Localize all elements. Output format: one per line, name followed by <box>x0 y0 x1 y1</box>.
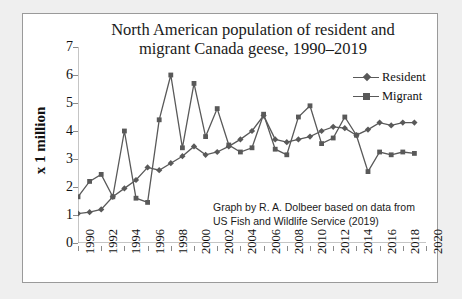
data-point-marker <box>168 160 174 166</box>
data-point-marker <box>203 134 208 139</box>
data-point-marker <box>308 103 313 108</box>
data-point-marker <box>284 152 289 157</box>
chart-title-line-1: North American population of resident an… <box>71 20 435 39</box>
data-point-marker <box>157 117 162 122</box>
data-point-marker <box>250 145 255 150</box>
data-point-marker <box>331 136 336 141</box>
x-tick-mark <box>403 246 404 251</box>
data-point-marker <box>400 119 406 125</box>
data-point-marker <box>318 128 324 134</box>
x-tick-mark <box>124 246 125 251</box>
x-tick-label: 1990 <box>83 229 98 254</box>
chart-frame: North American population of resident an… <box>22 13 438 283</box>
y-tick-label: 6 <box>47 67 73 83</box>
data-point-marker <box>110 194 115 199</box>
chart-legend: Resident Migrant <box>353 68 426 106</box>
x-tick-label: 2002 <box>222 229 237 254</box>
legend-label-resident: Resident <box>382 70 426 85</box>
y-axis-ticks: 01234567 <box>43 14 73 284</box>
legend-item-resident: Resident <box>353 68 426 87</box>
data-point-marker <box>226 143 231 148</box>
x-tick-label: 2004 <box>245 229 260 254</box>
data-point-marker <box>86 209 92 215</box>
x-tick-mark <box>148 246 149 251</box>
x-tick-label: 2014 <box>361 229 376 254</box>
data-point-marker <box>389 152 394 157</box>
y-tick-label: 2 <box>47 179 73 195</box>
y-tick-mark <box>73 243 78 244</box>
legend-label-migrant: Migrant <box>382 89 422 104</box>
data-point-marker <box>192 81 197 86</box>
x-tick-mark <box>101 246 102 251</box>
data-point-marker <box>215 106 220 111</box>
data-point-marker <box>214 149 220 155</box>
data-point-marker <box>365 126 371 132</box>
data-point-marker <box>261 112 266 117</box>
data-point-marker <box>307 133 313 139</box>
data-point-marker <box>330 124 336 130</box>
x-tick-mark <box>356 246 357 251</box>
data-point-marker <box>87 179 92 184</box>
data-point-marker <box>412 151 417 156</box>
data-point-marker <box>388 122 394 128</box>
data-point-marker <box>411 119 417 125</box>
data-point-marker <box>156 167 162 173</box>
data-point-marker <box>134 196 139 201</box>
x-tick-mark <box>171 246 172 251</box>
x-tick-mark <box>78 246 79 251</box>
y-tick-label: 3 <box>47 151 73 167</box>
x-tick-mark <box>333 246 334 251</box>
data-point-marker <box>145 200 150 205</box>
y-tick-label: 1 <box>47 207 73 223</box>
data-point-marker <box>122 129 127 134</box>
x-tick-mark <box>240 246 241 251</box>
x-tick-mark <box>380 246 381 251</box>
data-point-marker <box>238 150 243 155</box>
x-tick-mark <box>287 246 288 251</box>
legend-marker-diamond-icon <box>353 73 379 83</box>
data-point-marker <box>366 169 371 174</box>
data-point-marker <box>78 210 81 216</box>
x-tick-label: 1996 <box>153 229 168 254</box>
x-tick-label: 2000 <box>199 229 214 254</box>
y-tick-label: 7 <box>47 39 73 55</box>
x-tick-mark <box>426 246 427 251</box>
series-line <box>78 116 414 214</box>
x-tick-label: 2012 <box>338 229 353 254</box>
data-point-marker <box>180 145 185 150</box>
data-point-marker <box>273 147 278 152</box>
annotation-line-2: US Fish and Wildlife Service (2019) <box>213 214 415 228</box>
x-tick-label: 1992 <box>106 229 121 254</box>
x-tick-label: 2010 <box>315 229 330 254</box>
x-tick-label: 2008 <box>292 229 307 254</box>
y-tick-label: 5 <box>47 95 73 111</box>
x-tick-label: 2016 <box>385 229 400 254</box>
data-point-marker <box>400 150 405 155</box>
legend-marker-square-icon <box>353 92 379 102</box>
data-point-marker <box>284 139 290 145</box>
chart-annotation: Graph by R. A. Dolbeer based on data fro… <box>213 200 415 228</box>
x-tick-mark <box>194 246 195 251</box>
x-tick-label: 2020 <box>431 229 446 254</box>
data-point-marker <box>376 119 382 125</box>
data-point-marker <box>99 172 104 177</box>
x-tick-label: 2006 <box>269 229 284 254</box>
x-axis-ticks: 1990199219941996199820002002200420062008… <box>78 246 426 299</box>
data-point-marker <box>295 136 301 142</box>
data-point-marker <box>296 115 301 120</box>
x-tick-label: 2018 <box>408 229 423 254</box>
data-point-marker <box>342 125 348 131</box>
data-point-marker <box>168 73 173 78</box>
data-point-marker <box>377 150 382 155</box>
x-tick-mark <box>217 246 218 251</box>
legend-item-migrant: Migrant <box>353 87 426 106</box>
x-tick-mark <box>264 246 265 251</box>
y-tick-label: 0 <box>47 235 73 251</box>
x-tick-mark <box>310 246 311 251</box>
data-point-marker <box>78 194 80 199</box>
annotation-line-1: Graph by R. A. Dolbeer based on data fro… <box>213 200 415 214</box>
y-tick-label: 4 <box>47 123 73 139</box>
data-point-marker <box>342 115 347 120</box>
x-tick-label: 1994 <box>129 229 144 254</box>
data-point-marker <box>354 133 359 138</box>
